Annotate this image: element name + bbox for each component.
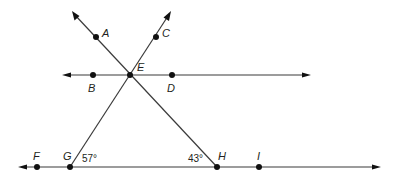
geometry-diagram: A C E B D F G H I 57° 43° (0, 0, 397, 178)
point-f (34, 164, 40, 170)
label-f: F (33, 150, 41, 162)
arrowhead-right-icon (302, 73, 311, 78)
point-c (153, 34, 159, 40)
point-g (67, 164, 73, 170)
label-d: D (167, 82, 175, 94)
label-g: G (63, 150, 72, 162)
angle-label-h: 43° (188, 153, 203, 164)
arrowhead-left-icon (62, 73, 71, 78)
label-c: C (162, 27, 170, 39)
label-h: H (218, 150, 226, 162)
line-bd (62, 73, 311, 78)
point-a (93, 34, 99, 40)
label-b: B (88, 82, 95, 94)
point-e (127, 72, 133, 78)
label-i: I (257, 150, 260, 162)
angle-label-g: 57° (82, 153, 97, 164)
label-a: A (101, 27, 109, 39)
arrowhead-right-icon (372, 165, 381, 170)
arrowhead-up-right-icon (164, 11, 172, 21)
label-e: E (137, 61, 145, 73)
point-d (169, 72, 175, 78)
point-i (256, 164, 262, 170)
point-h (214, 164, 220, 170)
point-b (90, 72, 96, 78)
arrowhead-left-icon (18, 165, 27, 170)
